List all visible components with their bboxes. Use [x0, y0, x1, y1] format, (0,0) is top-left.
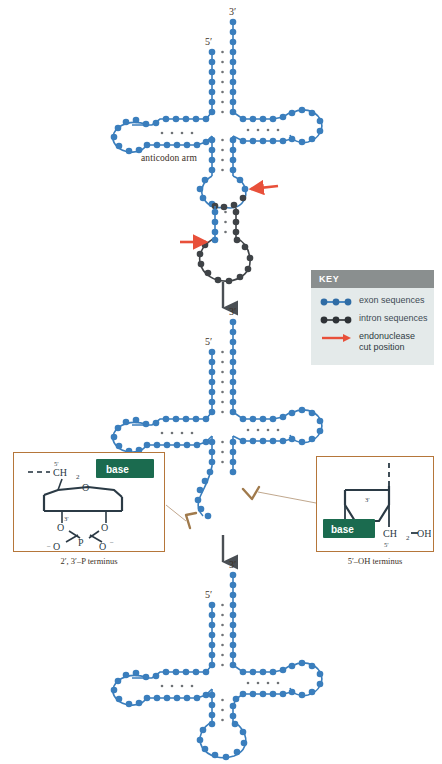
stage1-anticodon-stem — [209, 136, 237, 176]
base-tag-right: base — [323, 519, 381, 541]
stage2-label-5prime: 5′ — [205, 336, 212, 347]
figure-canvas — [0, 0, 442, 764]
stage1-label-3prime: 3′ — [229, 6, 236, 17]
anticodon-arm-label: anticodon arm — [141, 153, 197, 163]
key-label-endonuclease-line2: cut position — [359, 342, 415, 353]
key-row-endonuclease: endonuclease cut position — [319, 331, 434, 352]
minus-right: – — [109, 538, 114, 545]
inset-right-caption: 5′–OH terminus — [316, 556, 434, 566]
stage3-darm-basepairs — [161, 685, 194, 688]
key-row-intron: intron sequences — [319, 313, 434, 326]
stage2-tarm-basepairs — [247, 429, 280, 432]
stage1-anticodon-loop-right-dots — [237, 177, 249, 193]
callout-bracket-right — [243, 487, 259, 499]
stage3-acceptor-basepairs — [221, 604, 224, 667]
callout-line-left — [166, 505, 186, 521]
stage3-label-5prime: 5′ — [205, 589, 212, 600]
three-prime-label-left: 3′ — [64, 515, 69, 522]
key-header-label: KEY — [311, 270, 434, 288]
stage1-intron-stem — [212, 206, 240, 238]
stage1-tarm-basepairs — [247, 129, 280, 132]
key-label-exon: exon sequences — [359, 295, 425, 306]
inset-2p3p-phosphate-terminus: CH 2 5′ O 3′ O O P – O O – base — [13, 452, 165, 552]
ch2-subscript: 2 — [76, 473, 80, 481]
base-tag-left: base — [96, 459, 156, 481]
stage2-darm-basepairs — [161, 432, 194, 435]
red-arrow-icon — [319, 332, 353, 344]
o-minus-right-label: O — [99, 541, 106, 552]
minus-left: – — [46, 542, 51, 549]
key-row-exon: exon sequences — [319, 295, 434, 308]
stage3-label-3prime: 3′ — [229, 559, 236, 570]
stage1-label-5prime: 5′ — [205, 36, 212, 47]
bond-ch2-ring — [58, 479, 62, 490]
three-prime-label-right: 3′ — [365, 496, 370, 503]
stage2-acceptor-3prime-strand — [230, 319, 237, 416]
stage3-tarm-top-dots — [240, 663, 296, 676]
key-label-endonuclease-wrap: endonuclease cut position — [359, 331, 415, 352]
base-tag-left-text: base — [106, 464, 129, 475]
stage3-acceptor-5prime-strand — [209, 602, 216, 669]
stage3-tarm-basepairs — [247, 682, 280, 685]
ring-oxygen-label: O — [82, 482, 89, 493]
bond-p-ominus-left — [66, 535, 78, 542]
stage1-tarm-top-dots — [240, 110, 296, 123]
stage1-acceptor-basepairs — [221, 51, 224, 114]
key-label-intron: intron sequences — [359, 313, 428, 324]
stage1-darm-basepairs — [161, 132, 194, 135]
stage2-severed-left-strand — [195, 436, 216, 519]
stage2-tarm-top-dots — [240, 410, 296, 423]
stage3-acceptor-3prime-strand — [230, 572, 237, 669]
three-dot-chain-blue-icon — [319, 296, 353, 308]
inset-left-caption: 2′, 3′–P terminus — [13, 556, 165, 566]
key-rows: exon sequences intron sequences endonucl… — [311, 288, 434, 365]
cut-arrow-upper — [251, 186, 278, 189]
stage3-anticodon-stem — [209, 689, 237, 722]
stage1-acceptor-5prime-strand — [209, 49, 216, 116]
stage1-pre-trna — [111, 19, 324, 285]
oh-label: OH — [417, 528, 431, 539]
stage3-darm-top-dots — [143, 669, 210, 681]
stage3-mature-trna — [111, 572, 324, 761]
stage1-intron-loop-dots — [197, 237, 254, 285]
three-dot-chain-gray-icon — [319, 314, 353, 326]
stage2-darm-top-dots — [143, 416, 210, 428]
key-legend-box: KEY exon sequences intron sequences — [311, 270, 434, 365]
ch2-label: CH — [53, 467, 67, 478]
stage1-cut-point-upper — [240, 195, 247, 202]
key-label-endonuclease-line1: endonuclease — [359, 331, 415, 342]
o-minus-left-label: O — [53, 541, 60, 552]
base-tag-right-text: base — [331, 524, 354, 535]
stage2-severed-right-strand — [221, 436, 236, 475]
ch2-label-right: CH — [383, 528, 397, 539]
inset-5prime-oh-terminus: 3′ O CH 2 OH 5′ base — [316, 456, 434, 552]
stage2-acceptor-basepairs — [221, 351, 224, 414]
phosphate-oxyanions: – O O – — [14, 531, 162, 553]
five-prime-label-right: 5′ — [384, 541, 389, 548]
trna-splicing-diagram — [0, 0, 442, 764]
callout-line-right — [258, 492, 316, 503]
stage2-acceptor-5prime-strand — [209, 349, 216, 416]
five-prime-label-left: 5′ — [54, 460, 59, 467]
ch2-subscript-right: 2 — [406, 534, 410, 542]
stage1-acceptor-3prime-strand — [230, 19, 237, 116]
stage1-darm-top-dots — [143, 116, 210, 128]
callout-bracket-left — [186, 513, 196, 528]
stage2-label-3prime: 3′ — [229, 306, 236, 317]
